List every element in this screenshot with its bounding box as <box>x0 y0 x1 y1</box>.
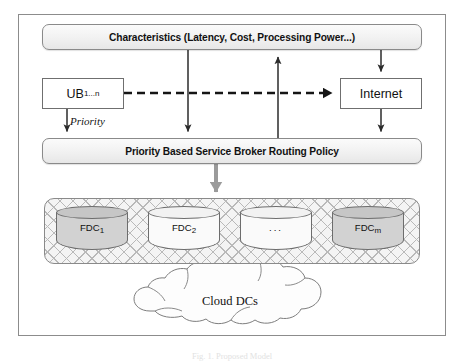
user-base-box: UB1...n <box>42 78 124 109</box>
cylinder-label-text: ... <box>269 222 283 233</box>
figure-canvas: Characteristics (Latency, Cost, Processi… <box>0 0 464 361</box>
cylinder-label-text: FDC <box>172 222 192 233</box>
internet-label: Internet <box>360 87 402 101</box>
cylinder-label: FDCm <box>332 222 404 235</box>
cylinder-top <box>56 206 128 219</box>
internet-box: Internet <box>340 78 422 109</box>
cylinder-label-text: FDC <box>355 222 375 233</box>
cylinder-label-subscript: 2 <box>192 226 196 235</box>
cylinder-label-subscript: 1 <box>100 226 104 235</box>
fdc-cylinder-ellipsis: ... <box>240 206 312 256</box>
user-base-subscript: 1...n <box>84 89 100 98</box>
cylinder-top <box>148 206 220 219</box>
priority-edge-label: Priority <box>70 115 105 127</box>
cylinder-label-subscript: m <box>375 226 382 235</box>
characteristics-label: Characteristics (Latency, Cost, Processi… <box>109 32 355 43</box>
cylinder-label-text: FDC <box>80 222 100 233</box>
fdc-cylinder: FDC1 <box>56 206 128 256</box>
cylinder-top <box>332 206 404 219</box>
cylinder-label: ... <box>240 222 312 233</box>
routing-policy-label: Priority Based Service Broker Routing Po… <box>125 146 339 157</box>
cylinder-label: FDC2 <box>148 222 220 235</box>
cylinder-top <box>240 206 312 219</box>
characteristics-bar: Characteristics (Latency, Cost, Processi… <box>42 24 422 50</box>
cloud-label: Cloud DCs <box>160 294 300 309</box>
fdc-cylinder: FDC2 <box>148 206 220 256</box>
figure-caption: Fig. 1. Proposed Model <box>0 351 464 361</box>
cloud-shape <box>134 255 321 323</box>
routing-policy-bar: Priority Based Service Broker Routing Po… <box>42 138 422 164</box>
cylinder-label: FDC1 <box>56 222 128 235</box>
fdc-cylinder: FDCm <box>332 206 404 256</box>
user-base-label: UB <box>67 87 84 101</box>
